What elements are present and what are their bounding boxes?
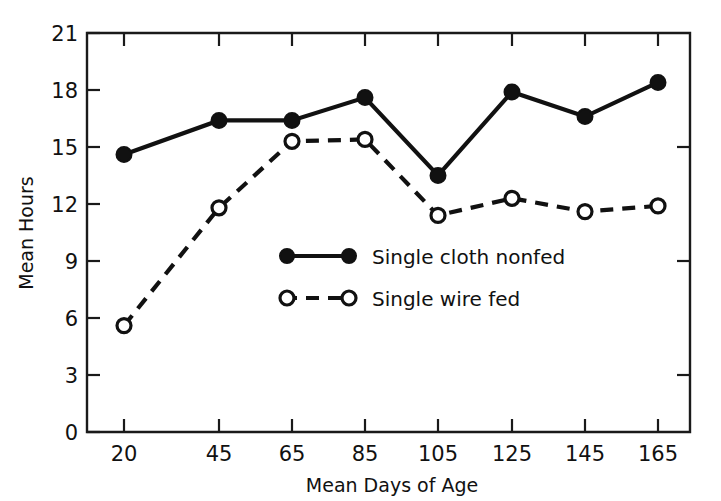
right-axis-ticks [677, 147, 690, 375]
data-point [358, 132, 372, 146]
legend-marker-open-circle [342, 291, 356, 305]
y-axis-ticks [87, 33, 100, 432]
series-line [124, 82, 658, 175]
data-point [651, 75, 666, 90]
data-point [578, 205, 592, 219]
y-tick-label: 18 [51, 79, 78, 103]
axis-box [87, 33, 690, 432]
x-tick-label: 165 [638, 442, 678, 466]
data-point [358, 90, 373, 105]
data-point [117, 319, 131, 333]
data-point [431, 168, 446, 183]
chart-canvas: 0 3 6 9 12 15 18 21 [0, 0, 721, 501]
data-point [505, 191, 519, 205]
data-point [285, 113, 300, 128]
x-tick-label: 105 [418, 442, 458, 466]
data-point [212, 201, 226, 215]
y-axis-title: Mean Hours [15, 176, 37, 289]
y-tick-label: 0 [65, 421, 78, 445]
legend-marker-filled-circle [280, 249, 294, 263]
x-axis-title: Mean Days of Age [306, 474, 478, 496]
top-axis-ticks [124, 33, 658, 46]
data-point [578, 109, 593, 124]
plot-frame [87, 33, 690, 432]
x-tick-label: 45 [206, 442, 233, 466]
y-tick-labels: 0 3 6 9 12 15 18 21 [51, 22, 78, 445]
data-point [117, 147, 132, 162]
legend: Single cloth nonfed Single wire fed [280, 245, 565, 311]
y-tick-label: 6 [65, 307, 78, 331]
legend-entry-single-cloth-nonfed: Single cloth nonfed [280, 245, 565, 269]
data-point [285, 134, 299, 148]
y-tick-label: 21 [51, 22, 78, 46]
legend-marker-open-circle [280, 291, 294, 305]
x-tick-label: 145 [565, 442, 605, 466]
data-point [505, 84, 520, 99]
legend-label: Single cloth nonfed [372, 245, 565, 269]
chart-figure: 0 3 6 9 12 15 18 21 [0, 0, 721, 501]
data-point [651, 199, 665, 213]
x-tick-label: 85 [352, 442, 379, 466]
x-axis-ticks [124, 419, 658, 432]
x-tick-label: 20 [111, 442, 138, 466]
y-tick-label: 15 [51, 136, 78, 160]
legend-marker-filled-circle [342, 249, 356, 263]
x-tick-label: 65 [279, 442, 306, 466]
x-tick-labels: 20 45 65 85 105 125 145 165 [111, 442, 678, 466]
data-point [431, 208, 445, 222]
data-point [212, 113, 227, 128]
y-tick-label: 9 [65, 250, 78, 274]
x-tick-label: 125 [492, 442, 532, 466]
legend-entry-single-wire-fed: Single wire fed [280, 287, 520, 311]
legend-label: Single wire fed [372, 287, 520, 311]
y-tick-label: 12 [51, 193, 78, 217]
y-tick-label: 3 [65, 364, 78, 388]
